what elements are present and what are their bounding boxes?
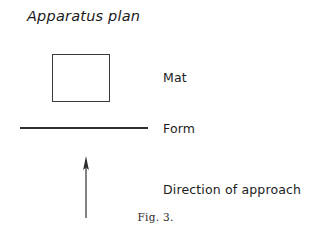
form-line-shape: [20, 127, 148, 129]
form-label: Form: [163, 121, 195, 136]
figure-caption-text: Fig. 3.: [137, 211, 173, 223]
direction-of-approach-label: Direction of approach: [163, 182, 301, 197]
apparatus-plan-figure: Apparatus plan Mat Form Direction of app…: [0, 0, 309, 237]
mat-rectangle-shape: [52, 54, 110, 102]
figure-title: Apparatus plan: [27, 8, 140, 24]
mat-label: Mat: [163, 70, 187, 85]
figure-caption: Fig. 3.: [0, 211, 309, 223]
